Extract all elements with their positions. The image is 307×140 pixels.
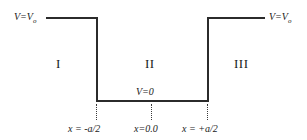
left-potential-label: V=Vo [14,12,36,25]
well-zero-potential-label: V=0 [136,87,154,97]
right-potential-subscript: o [288,17,292,25]
region-label-iii: III [234,57,249,70]
x-tick-label-left: x = -a/2 [68,124,100,134]
right-potential-text: V=V [269,11,288,22]
region-label-ii: II [145,57,155,70]
region-iii-potential-line [207,17,265,19]
dotted-guide-center [151,104,152,120]
left-potential-text: V=V [14,11,33,22]
dotted-guide-right [207,104,208,120]
dotted-guide-left [96,104,97,120]
region-label-i: I [56,57,61,70]
well-bottom-line [96,100,209,102]
potential-well-diagram: V=Vo V=Vo I II III V=0 x = -a/2 x=0.0 x … [0,0,307,140]
x-tick-label-center: x=0.0 [134,124,158,134]
left-well-wall [96,17,98,102]
right-well-wall [207,17,209,102]
region-i-potential-line [46,17,98,19]
right-potential-label: V=Vo [269,12,291,25]
x-tick-label-right: x = +a/2 [182,124,218,134]
left-potential-subscript: o [33,17,37,25]
